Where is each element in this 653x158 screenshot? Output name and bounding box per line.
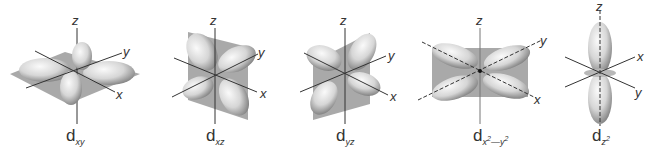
svg-text:x: x: [115, 87, 123, 102]
svg-text:y: y: [539, 33, 548, 48]
svg-text:z: z: [595, 0, 603, 14]
lobe: [72, 42, 92, 70]
svg-text:y: y: [387, 48, 396, 63]
svg-text:x: x: [259, 86, 267, 101]
lobe: [60, 71, 82, 105]
orbital-label: dxy: [66, 126, 84, 147]
orbital-label: dxz: [206, 126, 224, 147]
svg-text:z: z: [475, 13, 483, 28]
orbital-dz2: z x y dz2: [553, 0, 653, 158]
svg-text:y: y: [257, 45, 266, 60]
svg-text:x: x: [389, 89, 397, 104]
orbital-dxz: z y x dxz: [150, 0, 290, 158]
svg-text:z: z: [339, 13, 347, 28]
svg-text:y: y: [122, 44, 131, 59]
nucleus: [478, 69, 482, 73]
orbital-label: dx2—y2: [473, 126, 508, 147]
orbital-dxy: z y x dxy: [0, 0, 150, 158]
svg-text:y: y: [634, 85, 643, 100]
svg-text:x: x: [533, 92, 541, 107]
svg-text:z: z: [71, 13, 79, 28]
svg-text:z: z: [209, 13, 217, 28]
orbital-label: dz2: [592, 126, 610, 147]
orbital-label: dyz: [336, 126, 354, 147]
orbital-dyz: z y x dyz: [280, 0, 410, 158]
orbital-dx2-y2: z y x dx2—y2: [400, 0, 560, 158]
svg-text:x: x: [636, 49, 644, 64]
